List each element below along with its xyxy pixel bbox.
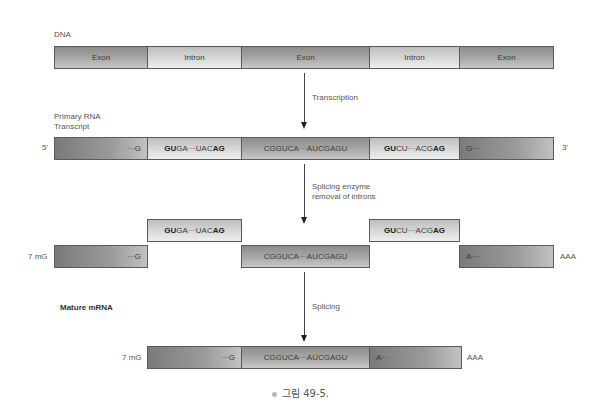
splice-site-donor: GU xyxy=(164,226,176,235)
splice-site-donor: GU xyxy=(384,144,396,153)
splicing-label: Splicing xyxy=(312,302,340,311)
splice-site-donor: GU xyxy=(384,226,396,235)
poly-a-tail-label: AAA xyxy=(560,252,576,261)
spliced-exon-3: A··· xyxy=(459,245,554,268)
arrow-down-icon xyxy=(301,335,307,342)
primary-transcript-label: Primary RNA Transcript xyxy=(54,112,101,132)
bullet-icon xyxy=(272,392,277,397)
spliced-exon-1: ···G xyxy=(54,245,148,268)
primary-intron-1: GUGA···UACAG xyxy=(147,137,242,160)
arrow-line xyxy=(304,164,305,218)
intron-sequence: GA···UAC xyxy=(176,226,212,235)
primary-intron-2: GUCU···ACGAG xyxy=(369,137,460,160)
dna-label: DNA xyxy=(54,30,71,39)
cap-label: 7 mG xyxy=(28,252,48,261)
spliced-exon-2: CGGUCA···AUCGAGU xyxy=(241,245,370,268)
splice-site-donor: GU xyxy=(164,144,176,153)
mature-tail-label: AAA xyxy=(467,353,483,362)
primary-label-line1: Primary RNA xyxy=(54,112,101,122)
dna-exon-3: Exon xyxy=(459,46,554,69)
mature-exon-3: A··· xyxy=(369,346,462,369)
figure-caption: 그림 49-5. xyxy=(272,385,329,400)
arrow-line xyxy=(304,272,305,336)
splicing-enzyme-line2: removal of introns xyxy=(312,192,376,202)
intron-sequence: GA···UAC xyxy=(176,144,212,153)
splice-site-acceptor: AG xyxy=(213,144,225,153)
splice-site-acceptor: AG xyxy=(433,144,445,153)
arrow-down-icon xyxy=(301,217,307,224)
arrow-down-icon xyxy=(301,122,307,129)
dna-intron-2: Intron xyxy=(369,46,460,69)
primary-label-line2: Transcript xyxy=(54,122,101,132)
primary-exon-3: G··· xyxy=(459,137,554,160)
three-prime-label: 3' xyxy=(562,143,568,152)
arrow-line xyxy=(304,73,305,123)
splicing-enzyme-label: Splicing enzyme removal of introns xyxy=(312,182,376,202)
dna-intron-1: Intron xyxy=(147,46,242,69)
five-prime-label: 5' xyxy=(42,143,48,152)
splice-site-acceptor: AG xyxy=(433,226,445,235)
intron-sequence: CU···ACG xyxy=(396,226,433,235)
primary-exon-2: CGGUCA···AUCGAGU xyxy=(241,137,370,160)
mature-cap-label: 7 mG xyxy=(122,353,142,362)
mature-mrna-label: Mature mRNA xyxy=(60,303,113,312)
transcription-label: Transcription xyxy=(312,93,358,102)
intron-sequence: CU···ACG xyxy=(396,144,433,153)
splicing-enzyme-line1: Splicing enzyme xyxy=(312,182,376,192)
splice-site-acceptor: AG xyxy=(213,226,225,235)
primary-exon-1: ···G xyxy=(54,137,148,160)
mature-exon-2: CGGUCA···AUCGAGU xyxy=(241,346,370,369)
excised-intron-2: GUCU···ACGAG xyxy=(369,219,460,242)
caption-text: 그림 49-5. xyxy=(282,388,329,399)
dna-exon-1: Exon xyxy=(54,46,148,69)
dna-exon-2: Exon xyxy=(241,46,370,69)
mature-exon-1: ···G xyxy=(147,346,242,369)
excised-intron-1: GUGA···UACAG xyxy=(147,219,242,242)
